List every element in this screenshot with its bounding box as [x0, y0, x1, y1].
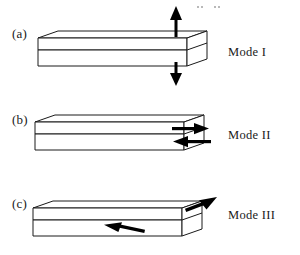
slab-lower-front-face: [38, 50, 187, 66]
slab-top-face: [33, 201, 202, 208]
mode-label-ii: Mode II: [228, 128, 271, 143]
mode-label-iii: Mode III: [228, 208, 275, 223]
slab-lower-front-face: [33, 220, 182, 236]
mode-label-i: Mode I: [228, 45, 266, 60]
slab-lower-front-face: [35, 134, 184, 150]
slab-upper-front-face: [35, 122, 184, 134]
panel-mode-ii: (b) Mode II: [0, 90, 300, 172]
slab-top-face: [35, 115, 204, 122]
slab-upper-front-face: [33, 208, 182, 220]
panel-mode-i: (a): [0, 0, 300, 90]
fracture-modes-figure: (a): [0, 0, 300, 255]
slab-top-face: [38, 31, 207, 38]
slab-upper-front-face: [38, 38, 187, 50]
panel-mode-iii: (c) Mode III: [0, 172, 300, 255]
